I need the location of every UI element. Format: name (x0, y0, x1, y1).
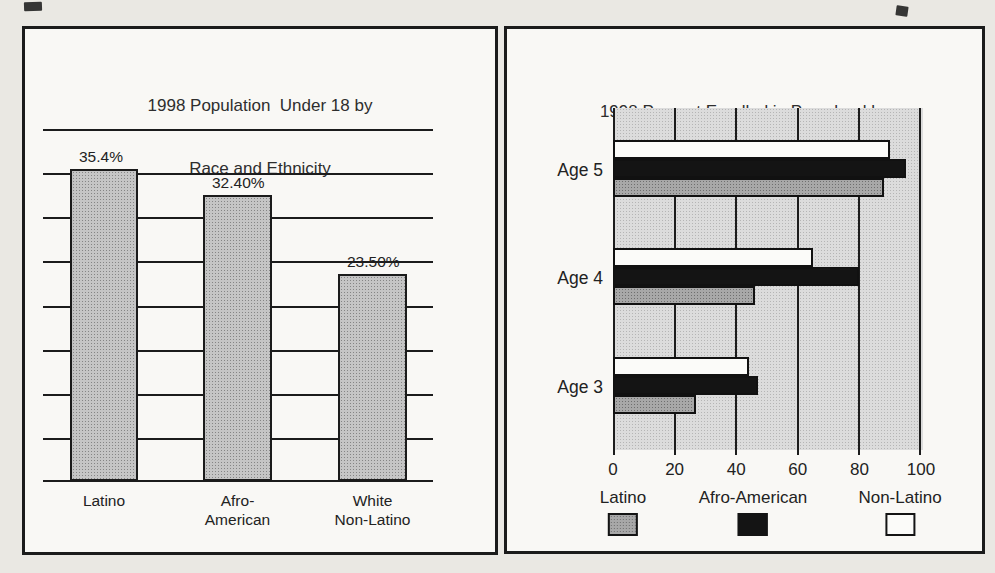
value-label-white-non-latino: 23.50% (347, 253, 400, 271)
bar-age-4-afro-american (613, 267, 859, 286)
value-label-afro-american: 32.40% (212, 174, 265, 192)
category-label-line2: Non-Latino (303, 510, 443, 529)
legend-item-afro-american: Afro-American (699, 488, 808, 536)
bar-age-3-latino (613, 395, 696, 414)
bar-latino: 35.4% (70, 169, 138, 481)
bar-age-4-latino (613, 286, 755, 305)
bar-afro-american: 32.40% (203, 195, 272, 481)
bar-age-5-latino (613, 178, 884, 197)
age-label-age-4: Age 4 (507, 268, 603, 289)
category-label-line2: American (168, 510, 308, 529)
scanned-page: 1998 Population Under 18 by Race and Eth… (0, 0, 995, 573)
category-label-line1: White (303, 491, 443, 510)
category-label-line1: Afro- (168, 491, 308, 510)
bar-age-3-non-latino (613, 357, 749, 376)
category-label-latino: Latino (34, 491, 174, 510)
bar-age-4-non-latino (613, 248, 813, 267)
age-label-age-3: Age 3 (507, 377, 603, 398)
value-label-latino: 35.4% (79, 148, 123, 166)
scan-artifact-icon (895, 5, 908, 17)
legend-item-latino: Latino (600, 488, 646, 536)
x-tick-label-80: 80 (850, 460, 869, 480)
preschool-chart-panel: 1998 Percent Enrolled in Preschool by Ra… (504, 26, 985, 554)
population-bar-plot: 35.4%32.40%23.50% (43, 129, 433, 482)
legend-swatch-non-latino (885, 513, 915, 536)
x-tick-label-20: 20 (665, 460, 684, 480)
legend-label-non-latino: Non-Latino (858, 488, 941, 508)
age-label-age-5: Age 5 (507, 160, 603, 181)
gridline (43, 129, 433, 131)
legend-swatch-afro-american (738, 513, 768, 536)
bar-white-non-latino: 23.50% (338, 274, 407, 481)
legend-swatch-latino (608, 513, 638, 536)
x-tick-label-0: 0 (608, 460, 617, 480)
category-label-afro-american: Afro-American (168, 491, 308, 529)
bar-age-5-afro-american (613, 159, 906, 178)
legend-label-afro-american: Afro-American (699, 488, 808, 508)
x-tick-label-40: 40 (727, 460, 746, 480)
population-chart-panel: 1998 Population Under 18 by Race and Eth… (22, 26, 498, 555)
x-tick-label-100: 100 (907, 460, 935, 480)
preschool-bar-plot (613, 108, 921, 450)
scan-artifact-icon (24, 2, 42, 12)
legend-item-non-latino: Non-Latino (858, 488, 941, 536)
population-chart-title-line1: 1998 Population Under 18 by (25, 95, 495, 116)
category-label-line1: Latino (34, 491, 174, 510)
bar-age-3-afro-american (613, 376, 758, 395)
bar-age-5-non-latino (613, 140, 890, 159)
gridline-100 (919, 108, 921, 455)
category-label-white-non-latino: WhiteNon-Latino (303, 491, 443, 529)
x-tick-label-60: 60 (788, 460, 807, 480)
legend-label-latino: Latino (600, 488, 646, 508)
